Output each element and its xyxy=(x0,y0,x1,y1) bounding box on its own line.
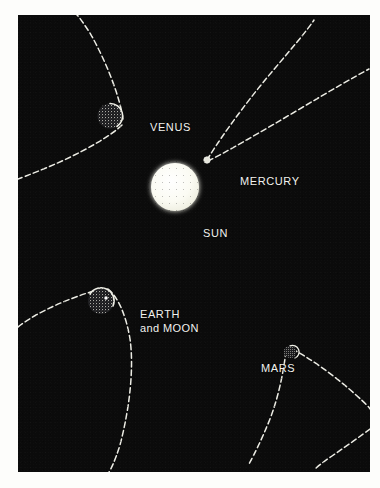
moon-body xyxy=(104,296,107,299)
earth-orbit-path-left xyxy=(18,289,102,327)
orbits-and-bodies-svg xyxy=(18,15,370,472)
night-sky-plate: VENUS MERCURY SUN EARTH and MOON MARS xyxy=(18,15,370,472)
label-sun: SUN xyxy=(203,227,228,240)
mars-orbit-path-far xyxy=(314,429,370,470)
label-earth-line2: and MOON xyxy=(140,321,199,335)
label-mercury: MERCURY xyxy=(240,175,300,188)
label-mars: MARS xyxy=(261,362,295,375)
label-earth-line1: EARTH xyxy=(140,308,180,320)
mars-body xyxy=(284,346,296,358)
mars-orbit-path-right xyxy=(292,349,370,409)
label-earth-and-moon: EARTH and MOON xyxy=(140,307,199,335)
venus-orbit-path-outer xyxy=(18,125,122,179)
venus-orbit-path xyxy=(77,15,123,119)
mercury-orbit-path xyxy=(207,20,314,160)
label-venus: VENUS xyxy=(150,121,191,134)
astronomy-diagram-figure: VENUS MERCURY SUN EARTH and MOON MARS xyxy=(0,0,380,488)
sun-body xyxy=(151,163,199,211)
mercury-orbit-path-outer xyxy=(208,69,369,161)
earth-orbit-path-right xyxy=(108,289,132,472)
